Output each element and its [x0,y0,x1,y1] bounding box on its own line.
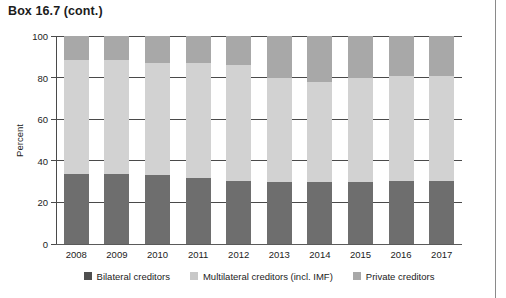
bar-2016 [389,36,414,244]
y-tick-80 [51,77,56,78]
segment-private [389,36,414,76]
segment-bilateral [429,181,454,244]
x-tick-label-2015: 2015 [350,249,371,260]
bar-2015 [348,36,373,244]
segment-bilateral [186,178,211,244]
legend-item: Bilateral creditors [84,271,170,282]
page-title: Box 16.7 (cont.) [8,4,103,18]
segment-bilateral [226,181,251,244]
segment-multilateral [186,63,211,178]
y-tick-label: 20 [37,197,48,208]
y-tick-100 [51,36,56,37]
segment-bilateral [64,174,89,244]
segment-private [429,36,454,76]
segment-multilateral [104,60,129,174]
y-tick-label: 40 [37,155,48,166]
segment-private [104,36,129,60]
plot-area: 020406080100 200820092010201120122013201… [56,36,462,244]
bar-2012 [226,36,251,244]
bar-2009 [104,36,129,244]
x-tick-label-2011: 2011 [188,249,208,260]
legend-label: Multilateral creditors (incl. IMF) [203,271,333,282]
segment-private [186,36,211,63]
x-tick-label-2013: 2013 [269,249,290,260]
y-axis-line [56,36,57,244]
y-tick-20 [51,202,56,203]
x-tick-label-2016: 2016 [391,249,412,260]
segment-private [348,36,373,78]
y-tick-label: 100 [32,31,48,42]
segment-multilateral [64,60,89,174]
y-tick-60 [51,119,56,120]
x-tick-label-2009: 2009 [106,249,127,260]
legend-label: Bilateral creditors [97,271,170,282]
segment-private [145,36,170,63]
segment-private [267,36,292,78]
segment-private [64,36,89,60]
bar-2011 [186,36,211,244]
x-tick-label-2008: 2008 [66,249,87,260]
segment-multilateral [348,78,373,182]
x-tick-label-2012: 2012 [228,249,249,260]
legend-label: Private creditors [366,271,435,282]
bar-2013 [267,36,292,244]
segment-multilateral [429,76,454,181]
segment-bilateral [389,181,414,244]
segment-multilateral [267,78,292,182]
y-tick-0 [51,244,56,245]
y-tick-label: 0 [43,239,48,250]
y-tick-label: 80 [37,72,48,83]
y-tick-40 [51,160,56,161]
stacked-bar-chart: Percent 020406080100 2008200920102011201… [0,28,495,260]
segment-multilateral [307,82,332,182]
page-right-rule [495,0,496,298]
legend-item: Multilateral creditors (incl. IMF) [190,271,333,282]
y-axis-title: Percent [12,36,26,244]
bar-2010 [145,36,170,244]
segment-bilateral [267,182,292,244]
x-tick-label-2014: 2014 [309,249,330,260]
x-tick-label-2010: 2010 [147,249,168,260]
segment-multilateral [389,76,414,181]
segment-bilateral [348,182,373,244]
legend-item: Private creditors [353,271,435,282]
legend-swatch-private [353,272,361,280]
segment-multilateral [226,65,251,180]
segment-bilateral [307,182,332,244]
y-tick-label: 60 [37,114,48,125]
legend-swatch-multilateral [190,272,198,280]
bar-2008 [64,36,89,244]
chart-legend: Bilateral creditorsMultilateral creditor… [56,268,462,284]
segment-private [226,36,251,65]
bar-2017 [429,36,454,244]
bar-2014 [307,36,332,244]
x-tick-label-2017: 2017 [431,249,452,260]
segment-private [307,36,332,82]
segment-bilateral [145,175,170,244]
legend-swatch-bilateral [84,272,92,280]
y-axis-title-label: Percent [14,124,25,157]
segment-bilateral [104,174,129,244]
segment-multilateral [145,63,170,175]
